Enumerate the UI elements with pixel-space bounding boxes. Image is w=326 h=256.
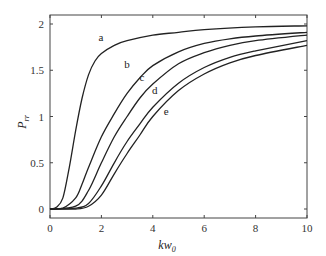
x-tick-label: 10 — [302, 222, 314, 234]
y-tick-label: 0 — [39, 203, 45, 215]
x-tick-label: 4 — [150, 222, 156, 234]
x-tick-label: 0 — [47, 222, 53, 234]
y-axis-label: Prr — [15, 114, 31, 129]
x-axis-label: kw0 — [158, 238, 175, 254]
curve-label-c: c — [140, 71, 145, 83]
line-chart: 024681000.511.52 abcde kw0 Prr — [0, 0, 326, 256]
curve-d — [50, 41, 307, 209]
curve-label-a: a — [98, 31, 103, 43]
curve-b — [50, 32, 307, 209]
x-tick-label: 2 — [99, 222, 105, 234]
plot-frame — [50, 15, 307, 218]
curves — [50, 26, 307, 209]
y-tick-label: 1.5 — [30, 64, 44, 76]
curve-label-d: d — [152, 84, 158, 96]
curve-c — [50, 35, 307, 209]
y-tick-label: 0.5 — [30, 157, 44, 169]
x-tick-label: 8 — [253, 222, 259, 234]
x-tick-label: 6 — [201, 222, 207, 234]
curve-label-e: e — [164, 105, 169, 117]
y-tick-label: 1 — [39, 111, 45, 123]
plot-area — [50, 15, 307, 218]
curve-label-b: b — [124, 58, 130, 70]
curve-labels: abcde — [98, 31, 168, 117]
y-tick-label: 2 — [39, 18, 45, 30]
curve-e — [50, 45, 307, 209]
